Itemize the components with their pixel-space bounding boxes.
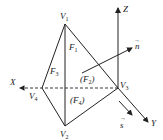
direction-vector-label: s: [120, 120, 124, 130]
edge-v2-v3: [65, 88, 118, 126]
face-f2-label: (F2): [80, 74, 95, 85]
tetrahedron-diagram: Z X Y → n → s V1 V2 V3 V4 F1 (F2) F3 (F4…: [0, 0, 163, 140]
edge-v2-v4: [42, 88, 65, 126]
face-f4-label: (F4): [70, 95, 85, 106]
vertex-v2-label: V2: [60, 129, 69, 140]
vertex-v3-label: V3: [120, 80, 129, 91]
vertex-v4-label: V4: [29, 91, 38, 102]
direction-vector-s: [119, 101, 132, 115]
y-axis-label: Y: [151, 118, 157, 128]
normal-vector-n: [82, 48, 132, 73]
x-axis-label: X: [9, 77, 16, 87]
normal-vector-label: n: [135, 41, 140, 51]
vertex-v1-label: V1: [60, 11, 69, 22]
face-f1-label: F1: [68, 42, 78, 53]
z-axis-label: Z: [123, 4, 129, 14]
face-f3-label: F3: [49, 66, 59, 77]
edge-v1-v4: [42, 24, 65, 88]
